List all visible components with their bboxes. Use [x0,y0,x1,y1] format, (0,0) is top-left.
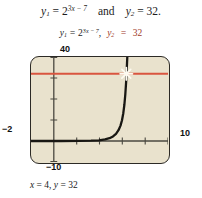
legend-comma: , [99,28,101,38]
equals-sign-2: = [137,5,144,17]
exponent-1: 3x − 7 [68,4,87,13]
window-xmax-label: 10 [180,128,190,138]
caption-y-value: = 32 [60,180,77,190]
legend-equals-2: = [120,28,126,38]
figure-container: y1 = 23x − 7andy2 = 32. y1 = 23x − 7,y2=… [0,0,202,198]
legend-y1-subscript: 1 [64,32,67,38]
caption-y-variable: y [54,180,58,190]
equation-statement: y1 = 23x − 7andy2 = 32. [0,4,202,18]
y2-value: 32. [147,5,161,17]
graphing-calculator-screen [30,56,170,164]
window-ymax-label: 40 [60,44,70,54]
legend-equals-1: = [69,28,75,38]
equals-sign-1: = [53,5,60,17]
window-ymin-label: −10 [46,162,61,172]
plot-legend: y1 = 23x − 7,y2=32 [0,28,202,38]
conjunction: and [98,5,115,17]
legend-y2-value: 32 [133,28,143,38]
window-xmin-label: −2 [2,124,12,134]
y1-subscript: 1 [46,10,50,18]
y2-subscript: 2 [131,10,135,18]
legend-y2-subscript: 2 [111,32,114,38]
plot-svg [31,57,168,162]
solution-caption: x = 4, y = 32 [30,180,190,190]
intersection-marker [120,68,132,80]
curve-y1-exponential [31,57,127,141]
caption-x-variable: x [30,180,34,190]
legend-exponent: 3x − 7 [83,28,99,34]
caption-x-value: = 4, [37,180,52,190]
screen-bezel [30,56,170,164]
